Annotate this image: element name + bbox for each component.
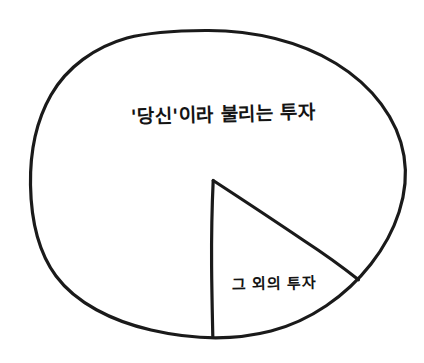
wedge-radius-vertical (212, 181, 214, 337)
pie-chart-drawing (0, 0, 424, 363)
pie-chart-figure: '당신'이라 불리는 투자 그 외의 투자 (0, 0, 424, 363)
slice-label-major: '당신'이라 불리는 투자 (130, 96, 315, 128)
slice-label-minor: 그 외의 투자 (232, 271, 316, 294)
